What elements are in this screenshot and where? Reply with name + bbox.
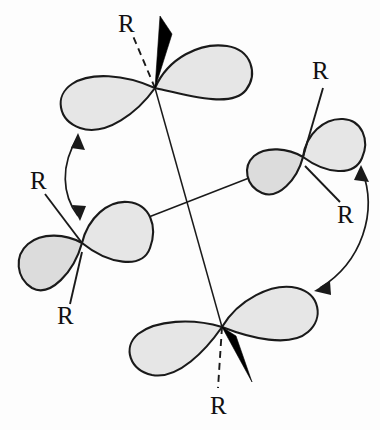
orbital-lobe-left-small xyxy=(19,236,82,291)
orbital-center-top xyxy=(61,16,252,130)
rotation-arrow-left-head-top xyxy=(71,133,85,150)
orbital-lobe-top-left xyxy=(61,76,155,130)
substituent-label-r-left-upper: R xyxy=(30,168,47,193)
rotation-arrow-right-head-bottom xyxy=(314,281,331,295)
substituent-bond-bottom-dashed xyxy=(218,327,222,388)
rotation-arrow-left xyxy=(65,133,86,221)
rotation-arrow-left-path xyxy=(65,137,78,216)
orbital-center-right xyxy=(247,88,365,202)
orbital-diagram-figure: R R R R R R xyxy=(0,0,380,430)
orbital-lobe-left-large xyxy=(82,202,153,262)
substituent-label-r-left-lower: R xyxy=(57,303,74,328)
orbital-lobe-bottom-right xyxy=(222,287,318,341)
substituent-label-r-right-lower: R xyxy=(337,202,354,227)
orbital-lobe-top-right xyxy=(155,45,252,99)
orbital-center-bottom xyxy=(130,287,318,388)
rotation-arrow-left-head-bottom xyxy=(72,205,86,221)
substituent-label-r-top: R xyxy=(118,11,135,36)
bond-top-to-bottom xyxy=(155,88,222,327)
orbital-center-left xyxy=(19,194,153,304)
substituent-label-r-right-upper: R xyxy=(312,58,329,83)
orbital-lobe-bottom-left xyxy=(130,322,222,376)
substituent-label-r-bottom: R xyxy=(210,393,227,418)
orbital-lobe-right-small xyxy=(247,149,303,194)
rotation-arrow-right-head-top xyxy=(354,165,369,182)
